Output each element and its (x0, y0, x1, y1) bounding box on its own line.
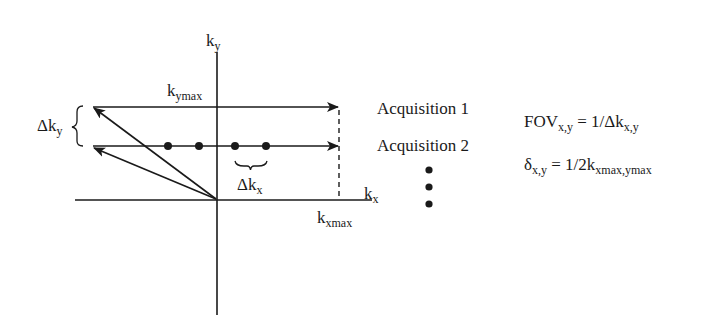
kymax-sub: ymax (176, 89, 203, 103)
sample-point (164, 142, 172, 150)
sample-point (195, 142, 203, 150)
delta-lhs: δ (524, 155, 532, 174)
ky-axis-label: ky (206, 32, 221, 49)
delta-kx-label: Δkx (237, 176, 262, 193)
kymax-base: k (167, 81, 176, 100)
delta-ky-label: Δky (37, 117, 62, 134)
delta-ky-brace (72, 106, 83, 146)
delta-lhs-sub: x,y (532, 163, 547, 177)
fov-equation: FOVx,y = 1/Δkx,y (524, 113, 639, 130)
kx-base: k (364, 184, 373, 203)
delta-rhs: = 1/2k (547, 155, 595, 174)
ellipsis-dot (425, 183, 432, 190)
delta-kx-sub: x (256, 183, 262, 197)
delta-rhs-sub: xmax,ymax (595, 163, 651, 177)
sample-point (231, 142, 239, 150)
kymax-label: kymax (167, 82, 202, 99)
fov-lhs-sub: x,y (558, 120, 573, 134)
sample-point (262, 142, 270, 150)
fov-rhs: = 1/Δk (573, 112, 624, 131)
acquisition-2-label: Acquisition 2 (377, 137, 469, 154)
prephase-arrow-1 (94, 108, 216, 199)
ky-base: k (206, 31, 215, 50)
delta-ky-sub: y (56, 124, 62, 138)
acquisition-1-label: Acquisition 1 (377, 100, 469, 117)
kxmax-sub: xmax (326, 216, 353, 230)
ellipsis-dot (425, 166, 432, 173)
kxmax-base: k (317, 208, 326, 227)
delta-kx-base: Δk (237, 175, 256, 194)
delta-kx-brace (235, 161, 267, 170)
prephase-arrow-2 (94, 148, 216, 199)
kxmax-label: kxmax (317, 209, 352, 226)
fov-lhs: FOV (524, 112, 558, 131)
fov-rhs-sub: x,y (624, 120, 639, 134)
resolution-equation: δx,y = 1/2kxmax,ymax (524, 156, 652, 173)
kx-axis-label: kx (364, 185, 379, 202)
ky-sub: y (215, 39, 221, 53)
kx-sub: x (373, 192, 379, 206)
delta-ky-base: Δk (37, 116, 56, 135)
ellipsis-dot (425, 200, 432, 207)
